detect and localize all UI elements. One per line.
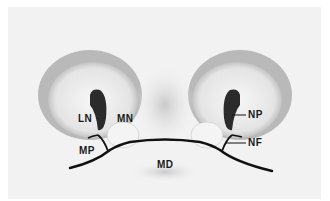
label-ln: LN: [78, 114, 92, 124]
label-md: MD: [157, 160, 174, 170]
label-np: NP: [248, 110, 263, 120]
nose-illustration: [0, 0, 330, 201]
label-nf: NF: [248, 138, 262, 148]
label-mn: MN: [117, 114, 134, 124]
label-mp: MP: [79, 146, 95, 156]
